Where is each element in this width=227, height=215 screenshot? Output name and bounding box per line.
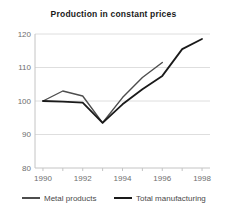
x-tick-label: 1996 xyxy=(153,174,171,183)
y-tick-label: 100 xyxy=(18,97,32,106)
x-tick-label: 1992 xyxy=(74,174,92,183)
y-tick-label: 120 xyxy=(18,30,32,39)
legend-label-metal-products: Metal products xyxy=(44,194,96,203)
legend-item-metal-products: Metal products xyxy=(22,190,96,206)
y-tick-label: 90 xyxy=(22,130,31,139)
x-tick-label: 1990 xyxy=(34,174,52,183)
metal-products-line-swatch xyxy=(22,197,40,199)
chart-legend: Metal products Total manufacturing xyxy=(0,190,227,206)
y-tick-label: 80 xyxy=(22,164,31,173)
line-chart-plot-area: 809010011012019901992199419961998 xyxy=(0,0,227,188)
legend-item-total-manufacturing: Total manufacturing xyxy=(114,190,206,206)
total-manufacturing-line-swatch xyxy=(114,197,132,199)
series-line-metal-products xyxy=(43,63,162,123)
series-line-total-manufacturing xyxy=(43,39,202,123)
y-tick-label: 110 xyxy=(18,63,31,72)
x-tick-label: 1994 xyxy=(114,174,132,183)
x-tick-label: 1998 xyxy=(193,174,211,183)
legend-label-total-manufacturing: Total manufacturing xyxy=(136,194,206,203)
